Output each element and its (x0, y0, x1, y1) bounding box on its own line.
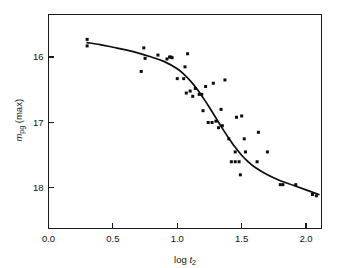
data-point (235, 116, 238, 119)
data-point (185, 92, 188, 95)
data-point (207, 121, 210, 124)
data-point (311, 193, 314, 196)
data-point (234, 160, 237, 163)
data-point (191, 95, 194, 98)
data-point (244, 150, 247, 153)
figure-container: 0.00.51.01.52.0 161718 log t2 mpg (max) (0, 0, 338, 268)
data-point (182, 77, 185, 80)
data-point (156, 54, 159, 57)
y-tick-label: 16 (33, 51, 44, 62)
data-point (144, 57, 147, 60)
data-point (238, 160, 241, 163)
data-point (211, 121, 214, 124)
y-tick-label: 17 (33, 117, 44, 128)
x-axis-ticks (49, 223, 307, 229)
data-point (176, 77, 179, 80)
data-point (220, 108, 223, 111)
data-point (294, 183, 297, 186)
y-axis-ticks (49, 57, 55, 188)
data-point (240, 114, 243, 117)
data-point (221, 124, 224, 127)
y-axis-tick-labels: 161718 (33, 51, 44, 193)
data-point (212, 82, 215, 85)
data-point (140, 70, 143, 73)
data-point (86, 38, 89, 41)
data-point (281, 183, 284, 186)
y-tick-label: 18 (33, 182, 44, 193)
plot-frame (49, 15, 322, 229)
data-point (227, 137, 230, 140)
data-point (234, 150, 237, 153)
data-point (198, 93, 201, 96)
data-point (184, 65, 187, 68)
data-point (230, 160, 233, 163)
data-point (243, 137, 246, 140)
x-axis-title-text: log t2 (174, 254, 196, 266)
data-points (86, 38, 318, 197)
x-tick-label: 0.5 (106, 233, 119, 244)
data-point (142, 46, 145, 49)
data-point (204, 85, 207, 88)
x-tick-label: 2.0 (299, 233, 312, 244)
x-tick-label: 0.0 (42, 233, 55, 244)
data-point (194, 87, 197, 90)
data-point (217, 126, 220, 129)
data-point (266, 150, 269, 153)
data-point (186, 52, 189, 55)
axis-box (49, 15, 322, 229)
data-point (257, 131, 260, 134)
data-point (200, 93, 203, 96)
data-point (315, 194, 318, 197)
data-point (256, 160, 259, 163)
x-axis-tick-labels: 0.00.51.01.52.0 (42, 233, 313, 244)
data-point (202, 109, 205, 112)
x-tick-label: 1.5 (235, 233, 248, 244)
x-axis-title: log t2 (174, 254, 196, 266)
chart-canvas: 0.00.51.01.52.0 161718 log t2 (0, 0, 338, 268)
data-point (86, 44, 89, 47)
x-tick-label: 1.0 (171, 233, 184, 244)
data-point (165, 58, 168, 61)
fit-curve (87, 43, 319, 195)
data-point (279, 183, 282, 186)
data-point (239, 173, 242, 176)
data-point (189, 90, 192, 93)
data-point (214, 120, 217, 123)
data-point (171, 56, 174, 59)
fit-curve-path (87, 43, 319, 195)
data-point (223, 78, 226, 81)
